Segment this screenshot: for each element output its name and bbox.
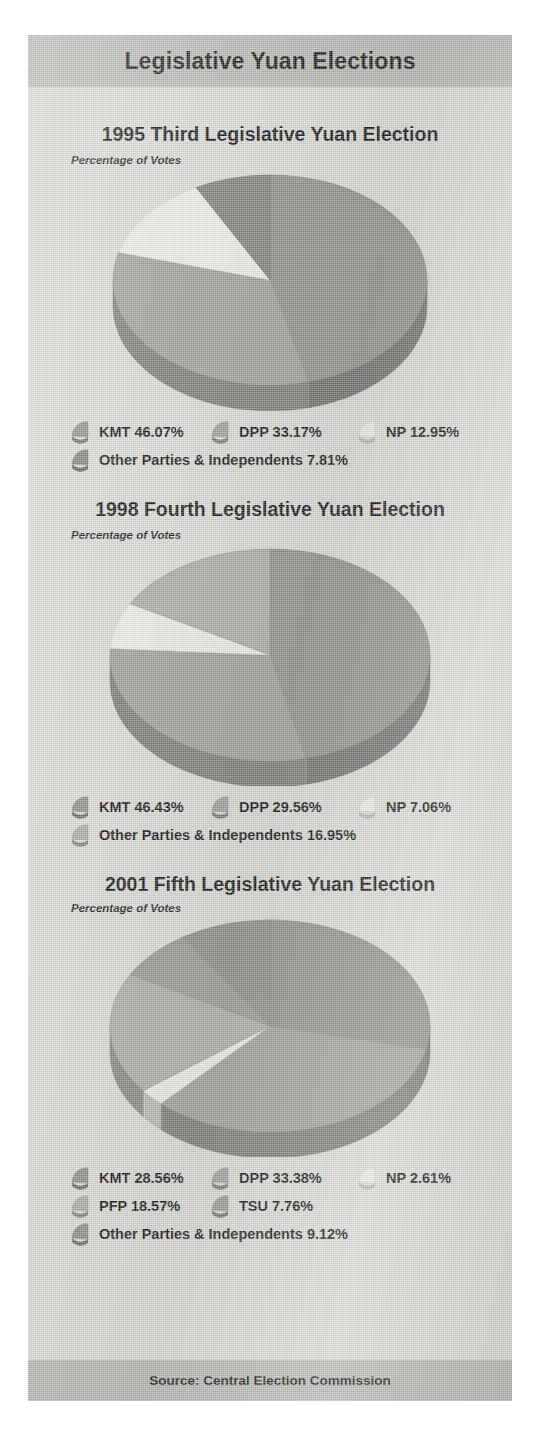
swatch-side [72,1210,88,1218]
legend-swatch-np-icon [358,1165,379,1190]
swatch-side [359,811,375,819]
swatch-top [72,797,88,812]
section-subtitle: Percentage of Votes [71,529,181,541]
swatch-top [72,1224,88,1239]
legend-label: Other Parties & Independents 9.12% [99,1226,348,1242]
chart-section-1995: 1995 Third Legislative Yuan Election Per… [28,97,512,507]
chart-section-2001: 2001 Fifth Legislative Yuan Election Per… [28,847,512,1327]
legend-swatch-other-icon [71,822,92,847]
legend-swatch-dpp-icon [211,1165,232,1190]
pie-chart-1995 [106,171,434,411]
legend-row: KMT 28.56%DPP 33.38%NP 2.61% [28,1165,512,1193]
swatch-side [72,1182,88,1190]
swatch-top [72,422,88,437]
legend-swatch-kmt-icon [71,794,92,819]
swatch-top [72,450,88,465]
legend-swatch-dpp-icon [211,794,232,819]
section-title: 1998 Fourth Legislative Yuan Election [28,498,512,521]
legend-label: Other Parties & Independents 16.95% [99,827,356,843]
legend-label: NP 12.95% [386,424,459,440]
source-note: Source: Central Election Commission [28,1360,512,1401]
swatch-side [359,436,375,444]
swatch-side [212,436,228,444]
legend-label: PFP 18.57% [99,1198,180,1214]
swatch-side [212,1182,228,1190]
poster-sheet: Legislative Yuan Elections 1995 Third Le… [28,35,512,1401]
page-title: Legislative Yuan Elections [28,35,512,87]
section-title: 1995 Third Legislative Yuan Election [28,123,512,146]
swatch-side [212,1210,228,1218]
legend-item-other[interactable]: Other Parties & Independents 7.81% [71,447,348,472]
legend-label: DPP 29.56% [239,799,322,815]
swatch-top [72,1168,88,1183]
swatch-top [72,825,88,840]
legend-item-pfp[interactable]: PFP 18.57% [71,1193,180,1218]
legend-item-np[interactable]: NP 12.95% [358,419,459,444]
legend-row: KMT 46.07%DPP 33.17%NP 12.95% [28,419,512,447]
swatch-top [359,1168,375,1183]
legend-1998: KMT 46.43%DPP 29.56%NP 7.06%Other Partie… [28,794,512,850]
legend-label: DPP 33.17% [239,424,322,440]
swatch-top [72,1196,88,1211]
swatch-side [72,1238,88,1246]
legend-item-kmt[interactable]: KMT 46.43% [71,794,184,819]
legend-swatch-other-icon [71,447,92,472]
legend-swatch-other-icon [71,1221,92,1246]
swatch-top [212,797,228,812]
legend-item-dpp[interactable]: DPP 29.56% [211,794,322,819]
legend-swatch-kmt-icon [71,1165,92,1190]
swatch-top [212,1168,228,1183]
legend-row: Other Parties & Independents 7.81% [28,447,512,475]
legend-row: Other Parties & Independents 16.95% [28,822,512,850]
legend-swatch-np-icon [358,419,379,444]
swatch-top [212,1196,228,1211]
legend-item-np[interactable]: NP 2.61% [358,1165,451,1190]
legend-label: DPP 33.38% [239,1170,322,1186]
swatch-top [359,422,375,437]
legend-item-dpp[interactable]: DPP 33.38% [211,1165,322,1190]
pie-chart-1998 [106,546,434,786]
section-subtitle: Percentage of Votes [71,902,181,914]
legend-label: NP 7.06% [386,799,451,815]
swatch-side [72,839,88,847]
section-subtitle: Percentage of Votes [71,154,181,166]
legend-item-tsu[interactable]: TSU 7.76% [211,1193,313,1218]
swatch-side [359,1182,375,1190]
swatch-top [359,797,375,812]
legend-swatch-np-icon [358,794,379,819]
legend-swatch-tsu-icon [211,1193,232,1218]
legend-item-other[interactable]: Other Parties & Independents 9.12% [71,1221,348,1246]
section-title: 2001 Fifth Legislative Yuan Election [28,873,512,896]
legend-label: NP 2.61% [386,1170,451,1186]
legend-row: Other Parties & Independents 9.12% [28,1221,512,1249]
swatch-side [72,464,88,472]
chart-section-1998: 1998 Fourth Legislative Yuan Election Pe… [28,472,512,882]
legend-item-dpp[interactable]: DPP 33.17% [211,419,322,444]
legend-swatch-dpp-icon [211,419,232,444]
legend-item-other[interactable]: Other Parties & Independents 16.95% [71,822,356,847]
legend-label: KMT 28.56% [99,1170,184,1186]
legend-label: KMT 46.43% [99,799,184,815]
swatch-side [212,811,228,819]
legend-1995: KMT 46.07%DPP 33.17%NP 12.95%Other Parti… [28,419,512,475]
legend-2001: KMT 28.56%DPP 33.38%NP 2.61%PFP 18.57%TS… [28,1165,512,1249]
legend-item-kmt[interactable]: KMT 28.56% [71,1165,184,1190]
legend-label: Other Parties & Independents 7.81% [99,452,348,468]
legend-label: KMT 46.07% [99,424,184,440]
swatch-top [212,422,228,437]
legend-item-np[interactable]: NP 7.06% [358,794,451,819]
legend-row: PFP 18.57%TSU 7.76% [28,1193,512,1221]
legend-label: TSU 7.76% [239,1198,313,1214]
legend-item-kmt[interactable]: KMT 46.07% [71,419,184,444]
legend-swatch-kmt-icon [71,419,92,444]
swatch-side [72,811,88,819]
swatch-side [72,436,88,444]
pie-chart-2001 [106,917,434,1157]
legend-swatch-pfp-icon [71,1193,92,1218]
legend-row: KMT 46.43%DPP 29.56%NP 7.06% [28,794,512,822]
